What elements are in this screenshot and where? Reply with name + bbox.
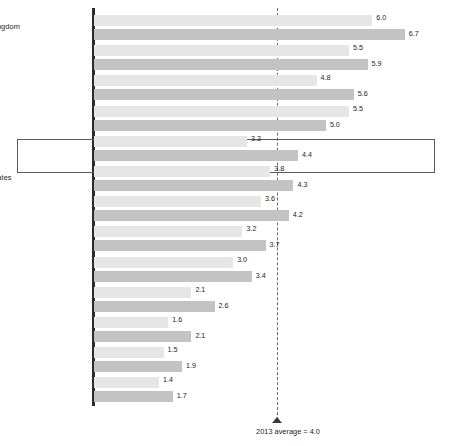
category-label: United Kingdom <box>0 22 86 31</box>
bar-value-label: 5.5 <box>353 105 363 112</box>
bar-value-label: 3.7 <box>270 241 280 248</box>
bar-value-label: 5.9 <box>372 60 382 67</box>
bar-value-label: 6.7 <box>409 30 419 37</box>
bar-bottom <box>94 361 182 372</box>
bar-value-label: 4.8 <box>321 74 331 81</box>
bar-top <box>94 136 247 147</box>
bar-value-label: 2.1 <box>195 286 205 293</box>
category-label: United States <box>0 173 86 182</box>
category-label: Brazil <box>0 384 86 393</box>
bar-row: Italy2.12.6 <box>0 286 450 316</box>
bar-value-label: 1.7 <box>177 392 187 399</box>
bar-top <box>94 75 317 86</box>
bar-value-label: 2.6 <box>219 302 229 309</box>
bar-top <box>94 377 159 388</box>
bar-bottom <box>94 331 191 342</box>
average-marker-icon <box>272 417 282 423</box>
bar-bottom <box>94 180 293 191</box>
bar-row: Russia1.51.9 <box>0 346 450 376</box>
bar-bottom <box>94 120 326 131</box>
bar-value-label: 5.6 <box>358 90 368 97</box>
bar-bottom <box>94 301 215 312</box>
bar-row: Japan4.85.6 <box>0 74 450 104</box>
bar-value-label: 3.2 <box>246 225 256 232</box>
bar-top <box>94 317 168 328</box>
bar-top <box>94 287 191 298</box>
bar-row: Brazil1.41.7 <box>0 376 450 406</box>
bar-top <box>94 347 164 358</box>
bar-top <box>94 257 233 268</box>
bar-bottom <box>94 271 252 282</box>
category-label: Italy <box>0 294 86 303</box>
bar-top <box>94 45 349 56</box>
plot-area: United Kingdom6.06.7Korea5.55.9Japan4.85… <box>0 0 450 446</box>
category-label: Japan <box>0 82 86 91</box>
average-caption: 2013 average = 4.0 <box>218 427 358 436</box>
bar-value-label: 3.4 <box>256 272 266 279</box>
bar-chart: United Kingdom6.06.7Korea5.55.9Japan4.85… <box>0 0 450 446</box>
bar-value-label: 3.8 <box>274 165 284 172</box>
category-label: Korea <box>0 52 86 61</box>
bar-value-label: 6.0 <box>376 14 386 21</box>
bar-value-label: 4.4 <box>302 151 312 158</box>
bar-row: United States3.84.3 <box>0 165 450 195</box>
bar-bottom <box>94 240 266 251</box>
bar-top <box>94 196 261 207</box>
bar-row: India1.62.1 <box>0 316 450 346</box>
category-label: Germany <box>0 233 86 242</box>
bar-value-label: 1.9 <box>186 362 196 369</box>
bar-row: Germany3.23.7 <box>0 225 450 255</box>
bar-bottom <box>94 29 405 40</box>
bar-row: France3.64.2 <box>0 195 450 225</box>
bar-value-label: 5.5 <box>353 44 363 51</box>
bar-bottom <box>94 150 298 161</box>
category-label: Canada <box>0 264 86 273</box>
bar-bottom <box>94 89 354 100</box>
bar-value-label: 1.4 <box>163 376 173 383</box>
bar-row: Sweden5.55.0 <box>0 105 450 135</box>
bar-top <box>94 106 349 117</box>
bar-top <box>94 15 372 26</box>
category-label: France <box>0 203 86 212</box>
bar-value-label: 3.3 <box>251 135 261 142</box>
bar-value-label: 5.0 <box>330 121 340 128</box>
bar-row: China3.34.4 <box>0 135 450 165</box>
category-label: India <box>0 324 86 333</box>
bar-value-label: 2.1 <box>195 332 205 339</box>
category-label: Russia <box>0 354 86 363</box>
bar-top <box>94 166 270 177</box>
bar-bottom <box>94 59 368 70</box>
bar-bottom <box>94 210 289 221</box>
bar-value-label: 1.5 <box>168 346 178 353</box>
bar-row: United Kingdom6.06.7 <box>0 14 450 44</box>
bar-value-label: 1.6 <box>172 316 182 323</box>
bar-value-label: 3.6 <box>265 195 275 202</box>
bar-bottom <box>94 391 173 402</box>
bar-value-label: 3.0 <box>237 256 247 263</box>
category-label: China <box>0 143 86 152</box>
category-label: Sweden <box>0 113 86 122</box>
bar-row: Korea5.55.9 <box>0 44 450 74</box>
bar-value-label: 4.3 <box>297 181 307 188</box>
bar-row: Canada3.03.4 <box>0 256 450 286</box>
bar-value-label: 4.2 <box>293 211 303 218</box>
bar-top <box>94 226 242 237</box>
